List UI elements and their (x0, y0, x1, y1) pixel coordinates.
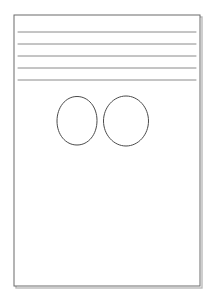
sketch-canvas: Hand-drawn wireframe sketch of a page (0, 0, 212, 304)
wireframe-drawing (0, 0, 212, 304)
